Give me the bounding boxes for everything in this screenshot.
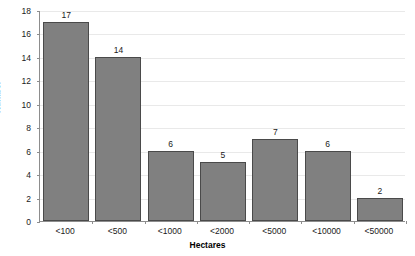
gridline [40, 222, 405, 223]
bar-slot: 5 [197, 11, 249, 221]
x-axis-title: Hectares [0, 240, 415, 250]
bar-slot: 7 [249, 11, 301, 221]
y-axis-tick-label: 6 [5, 148, 31, 157]
x-axis-tick-mark [249, 221, 250, 224]
bar-value-label: 14 [114, 46, 123, 55]
x-axis-tick-mark [92, 221, 93, 224]
y-axis-tick-label: 0 [5, 218, 31, 227]
x-axis-tick-mark [145, 221, 146, 224]
bar-value-label: 17 [61, 11, 70, 20]
plot-area: 171465762 [39, 11, 405, 222]
y-axis-tick-mark [37, 222, 40, 223]
y-axis-tick-label: 14 [5, 54, 31, 63]
x-axis-tick-mark [406, 221, 407, 224]
y-axis-tick-label: 8 [5, 124, 31, 133]
x-axis-tick-mark [301, 221, 302, 224]
bar-chart: 171465762 Number Hectares 18161412108642… [0, 0, 415, 256]
bar-value-label: 6 [325, 140, 330, 149]
y-axis-tick-label: 4 [5, 171, 31, 180]
bar-value-label: 6 [168, 140, 173, 149]
bar-slot: 6 [145, 11, 197, 221]
bar-slot: 2 [354, 11, 406, 221]
y-axis-tick-label: 10 [5, 101, 31, 110]
bar-slot: 6 [301, 11, 353, 221]
bar[interactable] [305, 151, 351, 221]
x-axis-category-label: <50000 [344, 227, 414, 236]
bar[interactable] [357, 198, 403, 221]
bar[interactable] [95, 57, 141, 221]
y-axis-tick-label: 2 [5, 195, 31, 204]
y-axis-title: Number [0, 57, 2, 137]
y-axis-tick-label: 18 [5, 7, 31, 16]
y-axis-tick-label: 12 [5, 77, 31, 86]
bar-value-label: 7 [273, 128, 278, 137]
bar[interactable] [148, 151, 194, 221]
x-axis-tick-mark [197, 221, 198, 224]
x-axis-tick-mark [354, 221, 355, 224]
bar-value-label: 5 [221, 151, 226, 160]
bar[interactable] [200, 162, 246, 221]
bar-slot: 17 [40, 11, 92, 221]
bar[interactable] [43, 22, 89, 221]
bar[interactable] [252, 139, 298, 221]
y-axis-tick-label: 16 [5, 30, 31, 39]
bar-value-label: 2 [377, 187, 382, 196]
bar-slot: 14 [92, 11, 144, 221]
